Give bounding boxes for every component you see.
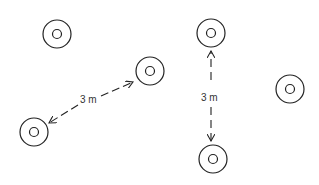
plant-symbol-top-center	[197, 19, 225, 47]
diagonal-dimension: 3 m	[49, 82, 133, 123]
plant-symbol-middle	[136, 57, 164, 85]
vertical-distance-label: 3 m	[201, 92, 218, 103]
vertical-dimension: 3 m	[201, 51, 218, 141]
plant-symbol-bottom-left	[20, 118, 48, 146]
plant-symbol-right	[276, 75, 304, 103]
plant-symbol-bottom-center	[199, 145, 227, 173]
spacing-diagram: 3 m 3 m	[0, 0, 319, 185]
plant-symbol-top-left	[43, 20, 71, 48]
diagonal-distance-label: 3 m	[80, 94, 97, 105]
